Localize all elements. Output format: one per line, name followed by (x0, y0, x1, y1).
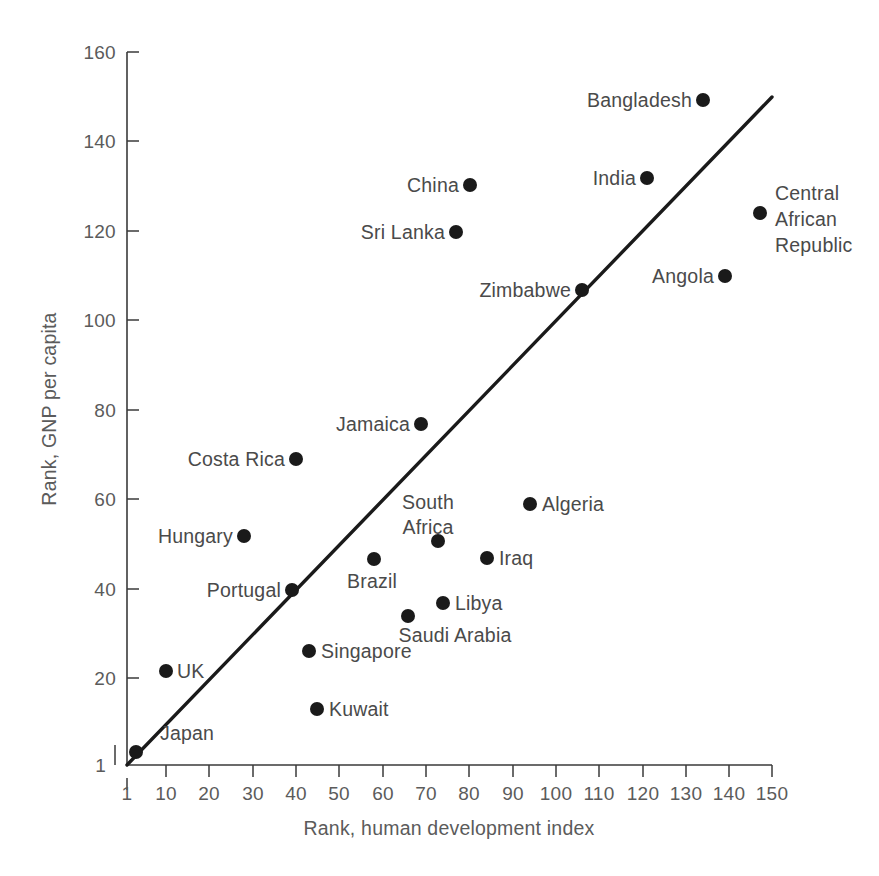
label-south-africa-line2: Africa (402, 516, 453, 538)
label-kuwait: Kuwait (329, 698, 389, 720)
x-tick-label-20: 20 (198, 783, 220, 804)
data-point-hungary[interactable] (237, 529, 251, 543)
data-point-algeria[interactable] (523, 497, 537, 511)
x-tick-label-120: 120 (627, 783, 660, 804)
label-libya: Libya (455, 592, 503, 614)
label-angola: Angola (652, 265, 714, 287)
data-point-japan[interactable] (129, 745, 143, 759)
x-axis-title: Rank, human development index (304, 817, 595, 839)
x-tick-label-100: 100 (540, 783, 573, 804)
equality-reference-line (127, 97, 772, 765)
x-tick-label-150: 150 (756, 783, 789, 804)
y-tick-label-160: 160 (83, 42, 116, 63)
x-tick-label-1: 1 (122, 783, 133, 804)
data-point-bangladesh[interactable] (696, 93, 710, 107)
data-point-central-african-republic[interactable] (753, 206, 767, 220)
x-axis-tick-labels: 1 10 20 30 40 50 60 70 80 90 100 110 120… (122, 783, 789, 804)
data-point-iraq[interactable] (480, 551, 494, 565)
label-car-line3: Republic (775, 234, 853, 256)
plot-area: 160 140 120 100 80 60 40 20 1 (0, 0, 879, 876)
label-hungary: Hungary (158, 525, 233, 547)
x-tick-label-110: 110 (583, 783, 614, 804)
label-brazil: Brazil (347, 570, 397, 592)
scatter-chart-figure: 160 140 120 100 80 60 40 20 1 (0, 0, 879, 876)
y-tick-label-120: 120 (83, 221, 116, 242)
label-japan: Japan (160, 722, 214, 744)
data-point-india[interactable] (640, 171, 654, 185)
y-axis-tick-labels: 160 140 120 100 80 60 40 20 1 (83, 42, 116, 776)
label-costa-rica: Costa Rica (188, 448, 285, 470)
label-sri-lanka: Sri Lanka (361, 221, 445, 243)
y-tick-label-60: 60 (94, 489, 116, 510)
data-point-sri-lanka[interactable] (449, 225, 463, 239)
data-point-labels-group: Japan UK Hungary Portugal Costa Rica Sin… (158, 89, 853, 744)
x-tick-label-30: 30 (242, 783, 264, 804)
y-tick-label-1: 1 (95, 755, 106, 776)
data-point-saudi-arabia[interactable] (401, 609, 415, 623)
label-india: India (593, 167, 636, 189)
label-car-line1: Central (775, 182, 839, 204)
x-tick-label-140: 140 (713, 783, 746, 804)
data-point-portugal[interactable] (285, 583, 299, 597)
y-tick-label-80: 80 (94, 400, 116, 421)
data-point-singapore[interactable] (302, 644, 316, 658)
x-tick-label-50: 50 (328, 783, 350, 804)
x-tick-label-130: 130 (670, 783, 703, 804)
label-bangladesh: Bangladesh (587, 89, 692, 111)
x-tick-label-40: 40 (285, 783, 307, 804)
y-axis-title: Rank, GNP per capita (38, 312, 60, 505)
data-point-jamaica[interactable] (414, 417, 428, 431)
y-tick-label-100: 100 (83, 310, 116, 331)
x-tick-label-10: 10 (155, 783, 177, 804)
data-point-zimbabwe[interactable] (575, 283, 589, 297)
y-tick-label-20: 20 (94, 668, 116, 689)
label-algeria: Algeria (542, 493, 604, 515)
x-tick-label-60: 60 (372, 783, 394, 804)
data-point-costa-rica[interactable] (289, 452, 303, 466)
y-tick-label-40: 40 (94, 579, 116, 600)
label-china: China (407, 174, 459, 196)
label-jamaica: Jamaica (336, 413, 410, 435)
label-south-africa-line1: South (402, 491, 454, 513)
data-point-uk[interactable] (159, 664, 173, 678)
label-car-line2: African (775, 208, 837, 230)
label-uk: UK (177, 660, 205, 682)
data-point-libya[interactable] (436, 596, 450, 610)
y-tick-label-140: 140 (83, 131, 116, 152)
x-tick-label-90: 90 (502, 783, 524, 804)
data-point-kuwait[interactable] (310, 702, 324, 716)
data-point-angola[interactable] (718, 269, 732, 283)
label-iraq: Iraq (499, 547, 533, 569)
label-zimbabwe: Zimbabwe (479, 279, 571, 301)
x-tick-label-70: 70 (415, 783, 437, 804)
axis-lines (127, 52, 772, 765)
data-point-brazil[interactable] (367, 552, 381, 566)
data-point-china[interactable] (463, 178, 477, 192)
label-saudi-arabia: Saudi Arabia (399, 624, 512, 646)
x-tick-label-80: 80 (458, 783, 480, 804)
label-portugal: Portugal (207, 579, 281, 601)
